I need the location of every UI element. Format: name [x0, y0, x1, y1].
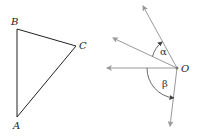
angle-label-alpha: α: [160, 46, 167, 57]
vertex-label-c: C: [79, 40, 87, 51]
beta-arc-arrow: [147, 68, 174, 98]
origin-point: [176, 67, 179, 70]
ray-upper-left-arrow: [113, 38, 177, 68]
ray-steep-arrow: [143, 6, 177, 68]
origin-label-o: O: [181, 63, 189, 74]
diagram-canvas: B C A α β O: [0, 0, 199, 138]
ray-down-arrow: [170, 68, 177, 126]
triangle-abc: B C A: [10, 16, 87, 131]
triangle-outline: [17, 29, 76, 117]
angle-label-beta: β: [162, 78, 168, 89]
angle-figure: α β O: [107, 6, 189, 126]
vertex-label-a: A: [12, 120, 20, 131]
vertex-label-b: B: [10, 16, 18, 27]
